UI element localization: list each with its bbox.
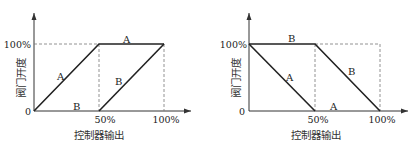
y-tick-0: 0 — [25, 106, 31, 117]
y-axis-title: 阀门开度 — [230, 57, 242, 98]
x-tick-100: 100% — [368, 114, 395, 125]
x-tick-50: 50% — [94, 114, 115, 125]
right-diagram: 100% 0 50% 100% B A A B 控制器输出 阀门开度 — [220, 13, 408, 141]
y-tick-100: 100% — [4, 39, 31, 50]
label-a-slope: A — [56, 71, 65, 82]
x-axis-title: 控制器输出 — [291, 129, 341, 141]
label-a-top: A — [122, 34, 131, 45]
curve-b — [99, 44, 164, 111]
label-a-slope: A — [285, 72, 294, 83]
split-range-diagrams: 100% 0 50% 100% A A B B 控制器输出 阀门开度 100% … — [0, 0, 412, 149]
left-diagram: 100% 0 50% 100% A A B B 控制器输出 阀门开度 — [4, 13, 191, 141]
curve-b — [249, 44, 380, 111]
y-axis-title: 阀门开度 — [15, 57, 27, 98]
x-tick-50: 50% — [307, 114, 328, 125]
curve-a — [249, 44, 315, 111]
label-b-slope: B — [348, 66, 355, 77]
y-tick-0: 0 — [239, 106, 245, 117]
x-tick-100: 100% — [152, 114, 179, 125]
label-b-slope: B — [115, 76, 122, 87]
y-tick-100: 100% — [220, 39, 247, 50]
label-b-bottom: B — [73, 101, 80, 112]
label-b-top: B — [288, 33, 295, 44]
x-axis-title: 控制器输出 — [74, 129, 124, 141]
label-a-bottom: A — [329, 101, 338, 112]
